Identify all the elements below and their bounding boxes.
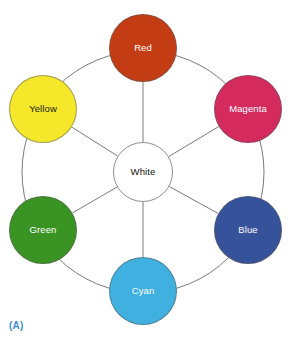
color-node-green-label: Green bbox=[30, 225, 57, 235]
color-node-blue[interactable]: Blue bbox=[214, 196, 282, 264]
spoke-line-green bbox=[72, 187, 117, 213]
color-node-white-label: White bbox=[131, 167, 156, 177]
color-node-white[interactable]: White bbox=[113, 142, 173, 202]
color-node-blue-label: Blue bbox=[238, 225, 257, 235]
spoke-line-blue bbox=[169, 187, 218, 214]
color-node-magenta[interactable]: Magenta bbox=[214, 75, 282, 143]
color-node-magenta-label: Magenta bbox=[229, 104, 267, 114]
spoke-line-yellow bbox=[72, 127, 118, 156]
color-node-red-label: Red bbox=[134, 43, 152, 53]
figure-caption: (A) bbox=[9, 320, 23, 331]
color-node-green[interactable]: Green bbox=[9, 196, 77, 264]
color-node-cyan[interactable]: Cyan bbox=[109, 257, 177, 325]
spoke-line-magenta bbox=[169, 126, 219, 156]
color-node-yellow[interactable]: Yellow bbox=[9, 75, 77, 143]
color-node-cyan-label: Cyan bbox=[132, 286, 155, 296]
color-node-yellow-label: Yellow bbox=[29, 104, 57, 114]
color-wheel-figure: White RedMagentaBlueCyanGreenYellow (A) bbox=[0, 0, 292, 345]
color-node-red[interactable]: Red bbox=[109, 14, 177, 82]
